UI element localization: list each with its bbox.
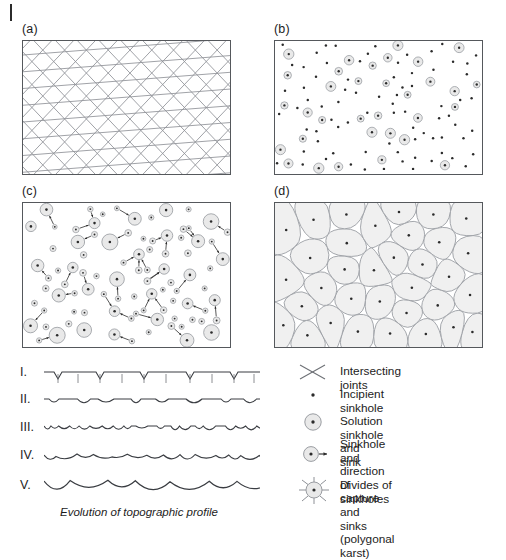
profile-curve-1	[44, 360, 260, 390]
profile-label-2: II.	[20, 392, 30, 406]
profile-curve-5	[44, 471, 260, 503]
profile-label-3: III.	[20, 420, 34, 434]
legend-label-incipient-sinkhole: Incipient sinkhole	[340, 388, 384, 415]
solution-sinkhole-icon	[296, 410, 330, 434]
panel-d-polygons-svg	[275, 203, 482, 347]
panel-label-d: (d)	[274, 184, 290, 198]
profile-curve-3	[44, 415, 260, 445]
panel-c-sinkhole-capture	[22, 202, 231, 348]
panel-label-b: (b)	[274, 22, 290, 36]
panel-c-capture-svg	[23, 203, 230, 347]
legend-label-polygonal-karst: Divides of sinkholes and sinks (polygona…	[340, 479, 394, 560]
panel-b-sinkholes-svg	[275, 41, 482, 174]
panel-label-c: (c)	[22, 184, 37, 198]
panel-d-polygonal-karst	[274, 202, 483, 348]
figure-legend: Intersecting joints Incipient sinkhole S…	[296, 362, 506, 522]
polygonal-karst-icon	[296, 476, 336, 506]
panel-b-incipient-sinkholes	[274, 40, 483, 175]
panel-a-joints-svg	[23, 41, 230, 174]
incipient-sinkhole-icon	[296, 386, 330, 404]
sinkhole-capture-icon	[296, 440, 336, 464]
profile-curve-2	[44, 387, 260, 417]
profiles-caption: Evolution of topographic profile	[60, 506, 218, 518]
intersecting-joints-icon	[296, 362, 330, 382]
panel-a-intersecting-joints	[22, 40, 231, 175]
profile-label-1: I.	[20, 365, 27, 379]
profile-label-5: V.	[20, 478, 31, 492]
panel-label-a: (a)	[22, 22, 38, 36]
margin-tick-mark	[10, 4, 12, 21]
topographic-profiles: I. II. III. IV. V.	[0, 360, 260, 510]
profile-label-4: IV.	[20, 448, 34, 462]
profile-curve-4	[44, 443, 260, 473]
